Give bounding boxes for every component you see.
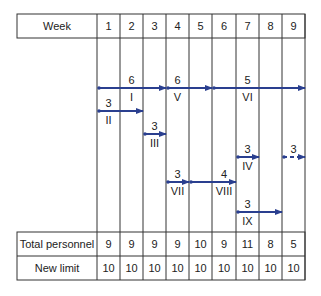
total-personnel-week-5: 10 <box>194 238 206 250</box>
new-limit-week-4: 10 <box>171 262 183 274</box>
activity-id: VII <box>171 185 184 197</box>
activity-extension: 3 <box>282 143 305 159</box>
personnel-count: 3 <box>174 168 180 180</box>
new-limit-week-1: 10 <box>102 262 114 274</box>
week-number-6: 6 <box>221 20 227 32</box>
week-number-4: 4 <box>174 20 180 32</box>
personnel-count: 3 <box>290 143 296 155</box>
week-number-7: 7 <box>244 20 250 32</box>
new-limit-week-2: 10 <box>125 262 137 274</box>
activity-id: I <box>130 91 133 103</box>
personnel-count: 3 <box>244 198 250 210</box>
week-label: Week <box>43 20 71 32</box>
week-number-1: 1 <box>105 20 111 32</box>
personnel-count: 3 <box>244 143 250 155</box>
total-personnel-label: Total personnel <box>20 238 95 250</box>
new-limit-week-6: 10 <box>218 262 230 274</box>
personnel-count: 3 <box>105 97 111 109</box>
activity-iii: 3III <box>143 120 166 149</box>
personnel-count: 3 <box>151 120 157 132</box>
week-number-5: 5 <box>197 20 203 32</box>
activity-arrows: 6I6V5VI3II3III3IV33VII4VIII3IX <box>97 74 305 227</box>
total-personnel-week-8: 8 <box>267 238 273 250</box>
personnel-count: 6 <box>174 74 180 86</box>
activity-vii: 3VII <box>166 168 189 197</box>
activity-id: VIII <box>216 185 233 197</box>
total-personnel-week-1: 9 <box>105 238 111 250</box>
total-personnel-week-3: 9 <box>151 238 157 250</box>
total-personnel-week-7: 11 <box>242 238 253 250</box>
personnel-count: 4 <box>221 168 227 180</box>
week-number-2: 2 <box>128 20 134 32</box>
personnel-count: 6 <box>128 74 134 86</box>
activity-viii: 4VIII <box>189 168 236 197</box>
week-number-9: 9 <box>290 20 296 32</box>
total-personnel-week-6: 9 <box>221 238 227 250</box>
week-number-3: 3 <box>151 20 157 32</box>
new-limit-week-5: 10 <box>194 262 206 274</box>
activity-id: VI <box>242 91 252 103</box>
activity-id: III <box>150 137 159 149</box>
week-number-8: 8 <box>267 20 273 32</box>
new-limit-week-8: 10 <box>264 262 276 274</box>
activity-id: IX <box>242 215 253 227</box>
total-personnel-week-4: 9 <box>174 238 180 250</box>
personnel-count: 5 <box>244 74 250 86</box>
activity-iv: 3IV <box>236 143 259 172</box>
new-limit-week-7: 10 <box>241 262 253 274</box>
resource-leveling-chart: Week123456789 6I6V5VI3II3III3IV33VII4VII… <box>0 0 321 296</box>
total-personnel-week-2: 9 <box>128 238 134 250</box>
total-personnel-week-9: 5 <box>290 238 296 250</box>
activity-id: IV <box>242 160 253 172</box>
new-limit-label: New limit <box>35 262 80 274</box>
activity-id: II <box>105 114 111 126</box>
activity-id: V <box>174 91 182 103</box>
new-limit-week-9: 10 <box>287 262 299 274</box>
new-limit-week-3: 10 <box>148 262 160 274</box>
